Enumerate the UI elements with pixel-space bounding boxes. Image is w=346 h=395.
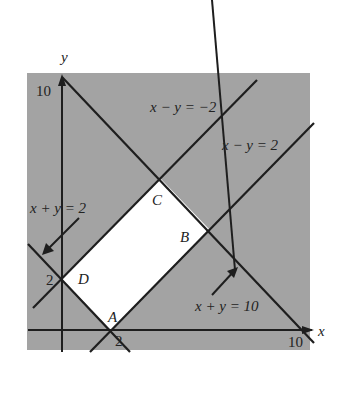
y-tick-2: 2 xyxy=(46,272,54,288)
vertex-D: D xyxy=(77,271,89,287)
y-axis-label: y xyxy=(59,49,68,65)
x-axis-label: x xyxy=(317,323,325,339)
x-tick-2: 2 xyxy=(115,333,123,349)
label-x-plus-y-eq-2: x + y = 2 xyxy=(29,200,87,216)
vertex-A: A xyxy=(107,309,118,325)
vertex-C: C xyxy=(152,192,163,208)
vertex-B: B xyxy=(180,229,189,245)
linear-programming-diagram: y x 10 10 2 2 x − y = −2 x − y = 2 x + y… xyxy=(0,0,346,395)
label-x-minus-y-eq-2: x − y = 2 xyxy=(221,137,279,153)
y-tick-10: 10 xyxy=(36,83,51,99)
x-tick-10: 10 xyxy=(288,334,303,350)
label-x-plus-y-eq-10: x + y = 10 xyxy=(194,298,259,314)
label-x-minus-y-eq-neg2: x − y = −2 xyxy=(149,99,217,115)
